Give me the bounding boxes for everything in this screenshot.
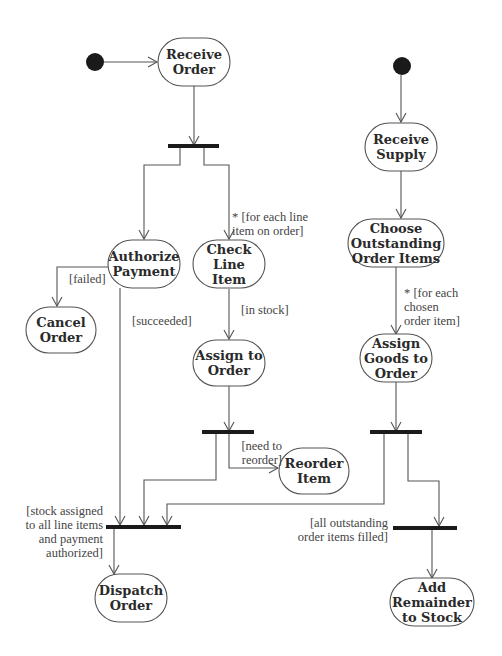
guard-label-line: [in stock] bbox=[241, 303, 289, 317]
activity-label-line: Check bbox=[207, 242, 253, 257]
edge-fork3-join-remainder bbox=[408, 433, 439, 526]
guard-label-line: order items filled] bbox=[298, 530, 388, 544]
activity-label-line: Line bbox=[213, 257, 245, 272]
activity-label-line: Order bbox=[208, 363, 251, 378]
guard-g-stock-assigned: [stock assignedto all line itemsand paym… bbox=[26, 504, 104, 560]
activity-cancel-order: CancelOrder bbox=[26, 307, 96, 353]
activity-label-line: Supply bbox=[376, 147, 426, 162]
edge-fork1-authorize bbox=[144, 147, 180, 239]
guard-label-line: * [for each line bbox=[232, 210, 308, 224]
activity-label-line: Receive bbox=[373, 132, 429, 147]
activity-label-line: Assign to bbox=[194, 348, 263, 363]
activity-assign-to-order: Assign toOrder bbox=[193, 340, 265, 386]
guard-label-line: [all outstanding bbox=[310, 516, 389, 530]
activity-label-line: to Stock bbox=[402, 610, 463, 625]
activity-receive-supply: ReceiveSupply bbox=[365, 123, 437, 171]
activity-label-line: Order bbox=[110, 598, 153, 613]
activity-label-line: Item bbox=[297, 471, 331, 486]
sync-bar-join_remainder bbox=[393, 526, 457, 530]
activity-label-line: Authorize bbox=[107, 249, 179, 264]
guard-g-all-outstanding: [all outstandingorder items filled] bbox=[298, 516, 389, 544]
activity-choose-outstanding: ChooseOutstandingOrder Items bbox=[348, 219, 444, 267]
activity-receive-order: ReceiveOrder bbox=[158, 38, 230, 86]
activity-check-line-item: CheckLineItem bbox=[193, 240, 265, 288]
guard-label-line: to all line items bbox=[26, 518, 104, 532]
guard-g-need-reorder: [need toreorder] bbox=[241, 439, 282, 467]
activity-reorder-item: ReorderItem bbox=[279, 448, 349, 494]
guard-label-line: authorized] bbox=[46, 546, 103, 560]
guard-label-line: * [for each bbox=[404, 286, 459, 300]
activity-label-line: Remainder bbox=[392, 595, 472, 610]
initial-nodes bbox=[86, 53, 411, 75]
initial-node-start1 bbox=[86, 53, 104, 71]
guard-g-failed: [failed] bbox=[69, 272, 106, 286]
guard-label-line: order item] bbox=[404, 314, 460, 328]
activity-label-line: Choose bbox=[370, 221, 423, 236]
guard-label-line: [need to bbox=[241, 439, 282, 453]
guard-label-line: reorder] bbox=[242, 453, 282, 467]
activity-assign-goods: AssignGoods toOrder bbox=[360, 334, 432, 382]
initial-node-start2 bbox=[393, 57, 411, 75]
edge-fork2-join bbox=[144, 433, 216, 525]
edge-fork1-check bbox=[204, 147, 229, 239]
activity-diagram: ReceiveOrderAuthorizePaymentCheckLineIte… bbox=[0, 0, 502, 656]
guard-label-line: [succeeded] bbox=[132, 314, 192, 328]
activity-label-line: Reorder bbox=[285, 456, 344, 471]
sync-bar-fork1 bbox=[168, 144, 219, 148]
guard-g-in-stock: [in stock] bbox=[241, 303, 289, 317]
activity-label-line: Payment bbox=[113, 264, 176, 279]
guard-label-line: [failed] bbox=[69, 272, 106, 286]
activity-label-line: Add bbox=[417, 580, 446, 595]
activity-label-line: Order bbox=[40, 330, 83, 345]
sync-bar-join_dispatch bbox=[106, 525, 181, 529]
activity-label-line: Item bbox=[212, 272, 246, 287]
guard-label-line: item on order] bbox=[232, 224, 304, 238]
activity-label-line: Order bbox=[173, 62, 216, 77]
guard-g-for-each-line: * [for each lineitem on order] bbox=[232, 210, 308, 238]
activity-dispatch-order: DispatchOrder bbox=[95, 574, 167, 622]
sync-bar-fork3 bbox=[370, 430, 422, 434]
guard-label-line: chosen bbox=[404, 300, 439, 314]
sync-bar-fork2 bbox=[202, 430, 254, 434]
guard-g-succeeded: [succeeded] bbox=[132, 314, 192, 328]
guard-label-line: and payment bbox=[39, 532, 104, 546]
guard-label-line: [stock assigned bbox=[26, 504, 103, 518]
activity-authorize-payment: AuthorizePayment bbox=[107, 240, 180, 288]
activity-label-line: Receive bbox=[166, 47, 222, 62]
activity-label-line: Order bbox=[375, 366, 418, 381]
activity-label-line: Outstanding bbox=[351, 236, 442, 251]
activity-label-line: Assign bbox=[371, 336, 421, 351]
activity-label-line: Order Items bbox=[352, 251, 440, 266]
activity-label-line: Cancel bbox=[36, 315, 85, 330]
activity-label-line: Dispatch bbox=[99, 583, 164, 598]
activity-add-remainder: AddRemainderto Stock bbox=[390, 578, 474, 626]
activity-label-line: Goods to bbox=[364, 351, 428, 366]
guard-g-for-each-chosen: * [for eachchosenorder item] bbox=[404, 286, 460, 328]
